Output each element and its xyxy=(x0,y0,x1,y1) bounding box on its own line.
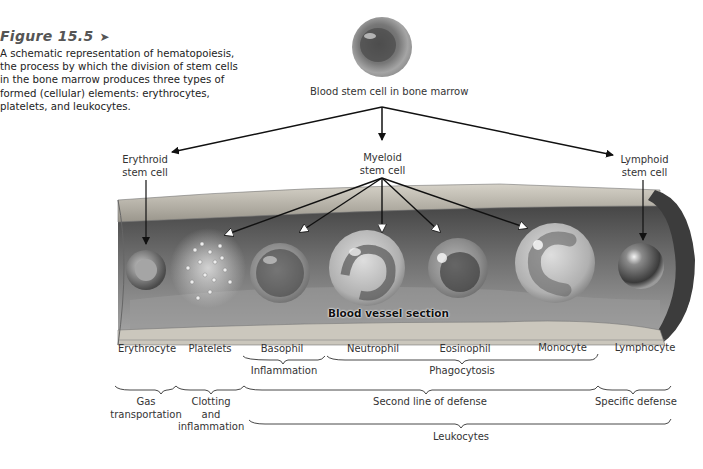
label-line: Lymphoid xyxy=(617,154,672,167)
blood-stem-cell-label: Blood stem cell in bone marrow xyxy=(310,86,455,99)
blood-stem-cell-image xyxy=(352,17,412,77)
label-line: inflammation xyxy=(178,421,244,434)
monocyte-image xyxy=(515,223,595,303)
group-label-phagocytosis: Phagocytosis xyxy=(420,365,504,378)
erythroid-stem-cell-label: Erythroid stem cell xyxy=(120,154,170,179)
label-line: stem cell xyxy=(355,165,410,178)
group-label-second-line-of-defense: Second line of defense xyxy=(370,396,490,409)
lymphocyte-image xyxy=(618,243,664,289)
label-line: Myeloid xyxy=(355,152,410,165)
label-line: and xyxy=(178,409,244,422)
label-line: transportation xyxy=(110,409,182,422)
group-label-leukocytes: Leukocytes xyxy=(425,431,497,444)
platelets-image xyxy=(170,228,246,308)
eosinophil-image xyxy=(428,238,488,298)
label-line: Erythroid xyxy=(120,154,170,167)
cell-label-monocyte: Monocyte xyxy=(530,342,595,355)
label-line: stem cell xyxy=(120,167,170,180)
group-label-specific-defense: Specific defense xyxy=(595,396,675,409)
label-line: Clotting xyxy=(178,396,244,409)
label-line: Gas xyxy=(110,396,182,409)
group-label-gas-transportation: Gas transportation xyxy=(110,396,182,421)
label-line: stem cell xyxy=(617,167,672,180)
myeloid-stem-cell-label: Myeloid stem cell xyxy=(355,152,410,177)
erythrocyte-image xyxy=(126,250,166,290)
basophil-image xyxy=(250,243,310,303)
cell-label-lymphocyte: Lymphocyte xyxy=(610,342,680,355)
cell-label-platelets: Platelets xyxy=(180,343,240,356)
cell-label-eosinophil: Eosinophil xyxy=(430,343,500,356)
group-label-clotting: Clotting and inflammation xyxy=(178,396,244,434)
blood-vessel-section-label: Blood vessel section xyxy=(328,307,449,319)
cell-label-erythrocyte: Erythrocyte xyxy=(112,343,182,356)
cell-label-neutrophil: Neutrophil xyxy=(338,343,408,356)
lymphoid-stem-cell-label: Lymphoid stem cell xyxy=(617,154,672,179)
neutrophil-image xyxy=(329,230,405,306)
group-label-inflammation: Inflammation xyxy=(243,365,325,378)
cell-label-basophil: Basophil xyxy=(252,343,312,356)
